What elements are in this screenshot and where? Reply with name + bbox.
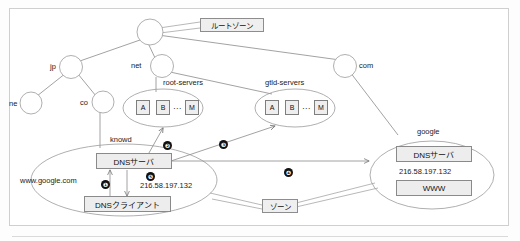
root-server-node-b: B <box>156 100 170 115</box>
server-group-label-gtld-servers: gtld-servers <box>265 79 304 87</box>
root-servers-ellipsis: ⋯ <box>173 104 182 113</box>
server-group-label-root-servers: root-servers <box>163 79 203 87</box>
flow-marker-1: ❶ <box>101 180 110 189</box>
root-server-node-m: M <box>185 100 199 115</box>
google-dns-server-box: DNSサーバ <box>396 146 472 162</box>
gtld-server-node-a: A <box>265 100 279 115</box>
bottom-divider <box>12 236 508 237</box>
local-dns-client-box: DNSクライアント <box>84 196 171 212</box>
gtld-servers-ellipsis: ⋯ <box>302 104 311 113</box>
local-answer-ip-label: 216.58.197.132 <box>140 182 192 190</box>
tree-node-label-net: net <box>131 62 141 70</box>
tree-node-label-com: com <box>359 62 373 70</box>
flow-marker-5: ❺ <box>146 172 155 181</box>
callout-knowd: knowd <box>110 136 132 144</box>
google-record-ip-label: 216.58.197.132 <box>399 168 451 176</box>
diagram-vector-layer <box>0 0 520 241</box>
callout-zone: ゾーン <box>262 199 298 213</box>
google-www-record-box: WWW <box>396 180 472 196</box>
root-server-node-a: A <box>136 100 150 115</box>
tree-node-label-ne: ne <box>9 100 17 108</box>
gtld-server-node-m: M <box>314 100 328 115</box>
tree-node-label-jp: jp <box>50 63 56 71</box>
callout-google-zone: google <box>417 128 440 136</box>
gtld-server-node-b: B <box>285 100 299 115</box>
flow-marker-2: ❷ <box>163 141 172 150</box>
flow-marker-3: ❸ <box>219 140 228 149</box>
tree-node-label-co: co <box>80 99 88 107</box>
diagram-canvas: jp net com ne co ルートゾーン root-servers gtl… <box>0 0 520 241</box>
callout-root-zone: ルートゾーン <box>200 18 264 32</box>
local-dns-server-box: DNSサーバ <box>96 153 172 169</box>
query-name-label: www.google.com <box>20 177 77 185</box>
flow-marker-4: ❹ <box>284 168 293 177</box>
